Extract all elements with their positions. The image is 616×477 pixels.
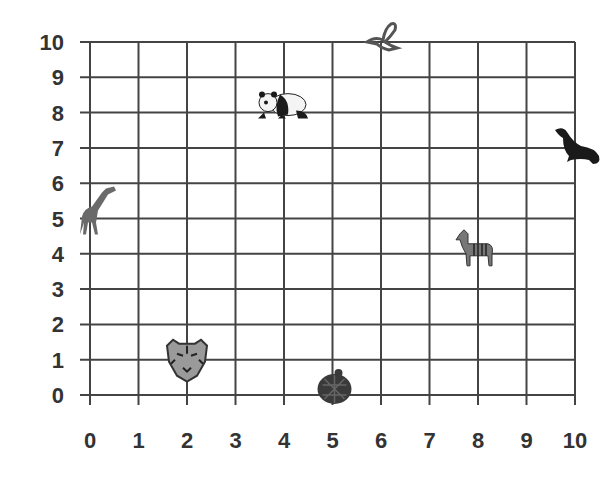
x-axis-tick-labels: 012345678910 [84,428,587,453]
y-tick-label: 0 [52,383,64,408]
y-tick-label: 3 [52,277,64,302]
panda-icon [258,92,308,119]
x-tick-label: 0 [84,428,96,453]
y-tick-label: 6 [52,171,64,196]
x-tick-label: 7 [423,428,435,453]
seal-icon [555,128,599,164]
y-tick-label: 5 [52,207,64,232]
x-tick-label: 8 [472,428,484,453]
y-tick-label: 2 [52,312,64,337]
bird-icon [367,24,397,50]
x-tick-label: 4 [278,428,291,453]
x-tick-label: 5 [326,428,338,453]
y-tick-label: 10 [40,30,64,55]
x-tick-label: 3 [229,428,241,453]
y-tick-label: 7 [52,136,64,161]
y-tick-label: 9 [52,65,64,90]
x-tick-label: 6 [375,428,387,453]
y-tick-label: 4 [52,242,65,267]
x-tick-label: 10 [563,428,587,453]
zebra-icon [456,230,493,266]
x-tick-label: 9 [520,428,532,453]
animal-markers [80,24,599,404]
y-tick-label: 1 [52,348,64,373]
x-tick-label: 2 [181,428,193,453]
tiger-icon [167,340,207,382]
y-axis-tick-labels: 012345678910 [40,30,65,408]
coordinate-grid-chart: 012345678910 012345678910 [0,0,616,477]
giraffe-icon [80,187,116,235]
turtle-icon [318,369,352,404]
y-tick-label: 8 [52,101,64,126]
grid-lines [80,42,575,405]
x-tick-label: 1 [132,428,144,453]
